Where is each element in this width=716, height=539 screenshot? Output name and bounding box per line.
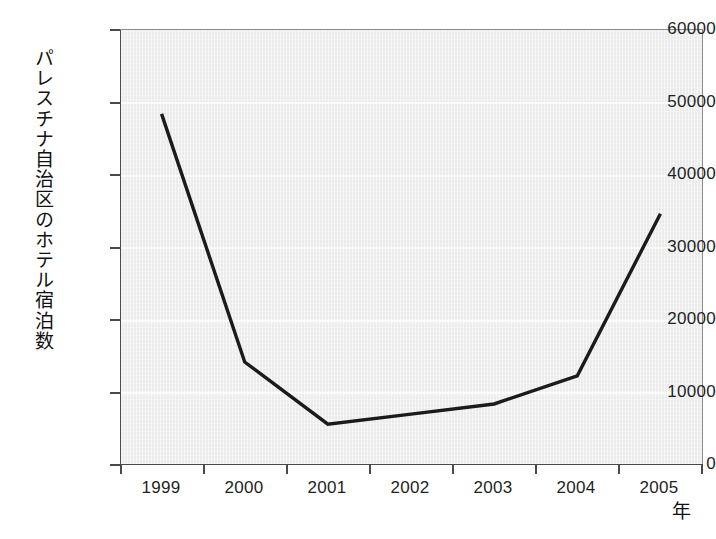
gridline-10000 <box>121 392 703 394</box>
x-tick-label-2005: 2005 <box>618 478 700 498</box>
y-tick-label-60000: 60000 <box>620 19 716 39</box>
gridline-20000 <box>121 320 703 322</box>
x-tick-6 <box>618 464 620 474</box>
x-tick-label-2003: 2003 <box>452 478 534 498</box>
y-tick-label-50000: 50000 <box>620 92 716 112</box>
x-tick-label-1999: 1999 <box>120 478 202 498</box>
x-tick-3 <box>369 464 371 474</box>
y-tick-30000 <box>110 247 120 249</box>
x-tick-0 <box>120 464 122 474</box>
y-tick-label-10000: 10000 <box>620 382 716 402</box>
x-axis-title: 年 <box>672 496 691 523</box>
y-tick-0 <box>110 464 120 466</box>
y-tick-label-30000: 30000 <box>620 237 716 257</box>
y-tick-50000 <box>110 102 120 104</box>
x-tick-1 <box>203 464 205 474</box>
plot-top-border <box>120 29 703 30</box>
x-tick-5 <box>535 464 537 474</box>
x-tick-7 <box>701 464 703 474</box>
x-tick-label-2001: 2001 <box>286 478 368 498</box>
y-tick-40000 <box>110 174 120 176</box>
x-tick-label-2002: 2002 <box>369 478 451 498</box>
x-tick-4 <box>452 464 454 474</box>
y-tick-10000 <box>110 392 120 394</box>
gridline-40000 <box>121 175 703 177</box>
x-tick-label-2000: 2000 <box>203 478 285 498</box>
y-tick-60000 <box>110 29 120 31</box>
y-tick-label-40000: 40000 <box>620 164 716 184</box>
y-axis-title: パレスチナ自治区のホテル宿泊数 <box>18 48 52 458</box>
y-tick-20000 <box>110 319 120 321</box>
plot-area <box>120 30 703 465</box>
x-tick-label-2004: 2004 <box>535 478 617 498</box>
gridline-50000 <box>121 102 703 104</box>
gridline-30000 <box>121 247 703 249</box>
x-tick-2 <box>286 464 288 474</box>
line-chart: パレスチナ自治区のホテル宿泊数 60000 50000 40000 30000 … <box>0 0 716 539</box>
y-tick-label-20000: 20000 <box>620 309 716 329</box>
